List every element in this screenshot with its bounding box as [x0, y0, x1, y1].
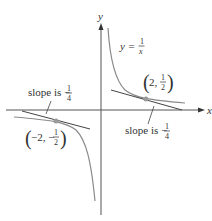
svg-text:4: 4 — [67, 94, 71, 103]
x-axis-arrow-icon — [198, 108, 205, 113]
svg-text:1: 1 — [161, 73, 165, 82]
y-axis-arrow-icon — [99, 23, 104, 30]
point-2-half — [144, 97, 149, 102]
curve-equation-label: y = 1 x — [119, 37, 145, 56]
point-neg2-neghalf — [54, 119, 59, 124]
svg-text:1: 1 — [165, 122, 169, 131]
svg-text:1: 1 — [140, 37, 144, 46]
svg-text:): ) — [167, 71, 174, 94]
point-label-negative: ( −2, − 1 2 ) — [25, 127, 67, 150]
x-axis-label: x — [206, 104, 212, 116]
leader-line — [46, 101, 51, 114]
y-axis-label: y — [97, 10, 103, 22]
svg-text:−2, −: −2, − — [31, 131, 54, 143]
hyperbola-diagram: x y y = 1 x ( 2, 1 2 ) ( −2, − 1 2 ) slo… — [0, 0, 212, 221]
svg-text:1: 1 — [67, 84, 71, 93]
leader-line — [148, 106, 154, 124]
svg-text:slope is −: slope is − — [28, 86, 70, 98]
point-label-positive: ( 2, 1 2 ) — [143, 71, 174, 94]
svg-text:1: 1 — [54, 128, 58, 137]
svg-text:x: x — [138, 47, 143, 56]
svg-text:2,: 2, — [149, 76, 158, 88]
svg-text:2: 2 — [54, 138, 58, 147]
slope-annotation-positive: slope is − 1 4 — [125, 106, 170, 141]
svg-text:): ) — [60, 127, 67, 150]
svg-text:2: 2 — [161, 83, 165, 92]
svg-text:y =: y = — [119, 40, 135, 52]
svg-text:4: 4 — [165, 132, 169, 141]
svg-text:slope is −: slope is − — [125, 124, 167, 136]
